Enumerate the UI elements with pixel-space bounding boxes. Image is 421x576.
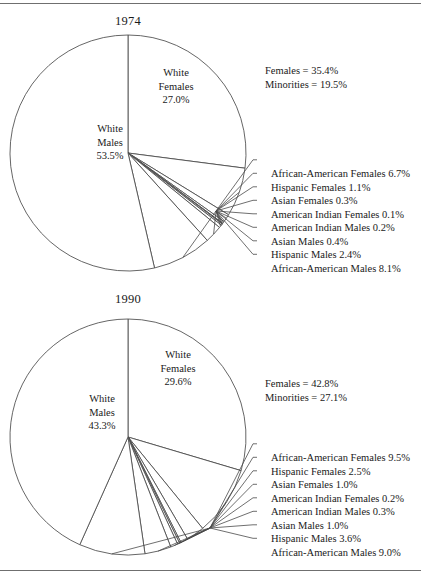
callout-label: Hispanic Males 2.4% (271, 248, 410, 262)
top-rule (0, 3, 421, 4)
callout-label: Asian Females 0.3% (271, 194, 410, 208)
callout-label: Asian Males 0.4% (271, 235, 410, 249)
callout-label: American Indian Males 0.2% (271, 221, 410, 235)
callout-label: Asian Males 1.0% (271, 519, 410, 533)
callout-label: American Indian Females 0.1% (271, 208, 410, 222)
callout-label: Asian Females 1.0% (271, 478, 410, 492)
callout-label: American Indian Males 0.3% (271, 505, 410, 519)
callout-label: African-American Males 8.1% (271, 262, 410, 276)
summary-minorities-1974: Minorities = 19.5% (265, 78, 347, 92)
callout-label: Hispanic Females 2.5% (271, 465, 410, 479)
summary-females-1974: Females = 35.4% (265, 64, 347, 78)
callout-label: African-American Females 9.5% (271, 451, 410, 465)
pie-label-white-males-1974: White Males 53.5% (72, 122, 148, 163)
pie-label-white-females-1990: White Females 29.6% (140, 348, 216, 389)
callout-label: African-American Females 6.7% (271, 167, 410, 181)
callout-labels-1990: African-American Females 9.5%Hispanic Fe… (271, 451, 410, 559)
summary-1990: Females = 42.8% Minorities = 27.1% (265, 377, 347, 405)
callout-labels-1974: African-American Females 6.7%Hispanic Fe… (271, 167, 410, 275)
chart-panel-1990: 1990 White Males 43.3% White Females 29.… (0, 292, 421, 570)
chart-panel-1974: 1974 White Males 53.5% White Females 27.… (0, 14, 421, 290)
summary-minorities-1990: Minorities = 27.1% (265, 391, 347, 405)
callout-label: American Indian Females 0.2% (271, 492, 410, 506)
callout-label: Hispanic Males 3.6% (271, 532, 410, 546)
callout-label: Hispanic Females 1.1% (271, 181, 410, 195)
summary-1974: Females = 35.4% Minorities = 19.5% (265, 64, 347, 92)
summary-females-1990: Females = 42.8% (265, 377, 347, 391)
callout-label: African-American Males 9.0% (271, 546, 410, 560)
pie-label-white-males-1990: White Males 43.3% (64, 392, 140, 433)
pie-label-white-females-1974: White Females 27.0% (138, 66, 214, 107)
bottom-rule (0, 570, 421, 571)
